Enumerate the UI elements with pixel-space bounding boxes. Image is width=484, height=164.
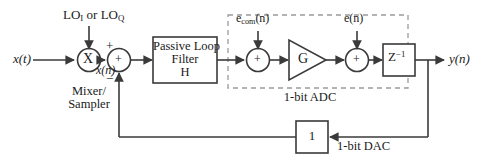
input-signal-label: x(t): [13, 52, 31, 66]
noise-com-sub: com: [241, 17, 255, 26]
gain-symbol: G: [298, 52, 308, 67]
lo-signal-label: LOI or LOQ: [63, 8, 124, 24]
output-signal-label: y(n): [449, 52, 470, 66]
delay-label: Z−1: [388, 50, 405, 64]
mixer-caption-line2: Sampler: [58, 98, 120, 111]
noise-com-label: ecom(n): [236, 12, 269, 27]
loop-filter-line3: H: [153, 66, 217, 79]
lo-base-1: LO: [63, 7, 80, 22]
delay-exponent: −1: [396, 49, 405, 59]
loop-filter-label: Passive Loop Filter H: [153, 40, 217, 79]
noise-com-arg: (n): [255, 11, 269, 25]
lo-sub-q: Q: [118, 13, 124, 23]
mixer-symbol: X: [83, 52, 93, 67]
summer-input-symbol: +: [115, 53, 122, 66]
summer-input-plus-sign: +: [106, 39, 113, 52]
summer-com-symbol: +: [254, 53, 261, 66]
noise-e-arg: (n): [349, 11, 363, 25]
adc-group-label: 1-bit ADC: [255, 91, 365, 104]
summer-e-symbol: +: [353, 53, 360, 66]
mixer-caption: Mixer/ Sampler: [58, 85, 120, 111]
dac-symbol: 1: [296, 129, 328, 143]
summer-input-minus-sign: −: [106, 72, 113, 85]
lo-base-2: LO: [101, 7, 118, 22]
dac-group-label: 1-bit DAC: [337, 140, 390, 153]
block-diagram-figure: x(t) LOI or LOQ X x(n) Mixer/ Sampler + …: [0, 0, 484, 164]
lo-joiner: or: [83, 7, 100, 22]
noise-e-label: e(n): [344, 12, 363, 25]
delay-base: Z: [388, 49, 396, 64]
